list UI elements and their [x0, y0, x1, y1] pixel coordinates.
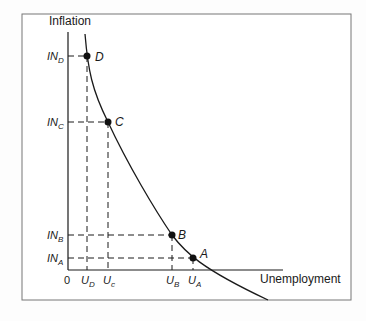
y-axis-title: Inflation: [49, 14, 91, 28]
point-label-A: A: [199, 247, 208, 261]
point-A: [190, 255, 197, 262]
point-label-D: D: [95, 50, 104, 64]
point-D: [84, 53, 91, 60]
point-label-B: B: [178, 228, 186, 242]
point-label-C: C: [115, 115, 124, 129]
phillips-curve-diagram: D C B A Inflation Unemployment 0 IND INC…: [0, 0, 366, 321]
point-B: [169, 232, 176, 239]
figure-frame: [22, 14, 351, 300]
point-C: [105, 119, 112, 126]
x-axis-title: Unemployment: [260, 272, 341, 286]
origin-label: 0: [64, 274, 70, 286]
